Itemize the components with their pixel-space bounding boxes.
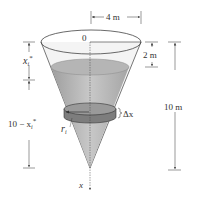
slab-thickness-label: Δx	[123, 109, 134, 119]
depth-lower-label: 10 − xi*	[8, 117, 37, 130]
depth-upper-label: xi*	[22, 54, 33, 67]
axis-label: x	[78, 180, 83, 190]
slab-brace	[118, 108, 122, 118]
height-label: 10 m	[164, 102, 182, 112]
origin-label: 0	[82, 33, 87, 43]
water-offset-label: 2 m	[143, 50, 157, 60]
top-width-label: 4 m	[106, 12, 120, 22]
radius-label: ri	[61, 123, 67, 135]
conical-tank-diagram: 4 m 2 m 10 m xi* 10 − xi* ri Δx 0 x	[0, 0, 199, 200]
